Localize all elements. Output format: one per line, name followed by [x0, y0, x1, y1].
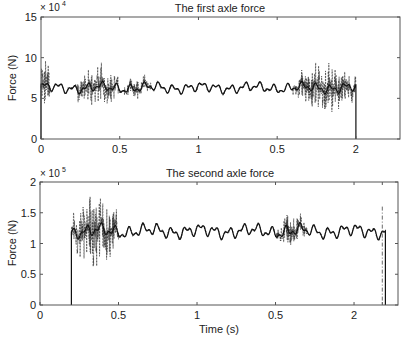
- series-dashed: [41, 61, 356, 112]
- x-axis-label: Time (s): [199, 323, 239, 335]
- y-tick-label: 2: [30, 176, 36, 188]
- x-tick-label: 2: [353, 143, 359, 155]
- y-tick-label: 5: [31, 92, 37, 104]
- x-tick-label: 0.5: [270, 143, 285, 155]
- x-tick-label: 1: [194, 309, 200, 321]
- plot-area-second: [71, 197, 385, 305]
- series-solid: [71, 223, 385, 305]
- x-tick-label: 0: [37, 309, 43, 321]
- y-tick-label: 0: [30, 299, 36, 311]
- y-tick-label: 0.5: [21, 268, 36, 280]
- y-axis-label-first: Force (N): [6, 55, 18, 101]
- y-tick-label: 1: [30, 238, 36, 250]
- y-tick-label: 1.5: [21, 207, 36, 219]
- ticks-second: 00.510.5200.511.52: [21, 176, 398, 321]
- y-exponent-first: × 10 4: [40, 0, 66, 13]
- figure: The first axle force × 10 4 Force (N) 00…: [0, 0, 405, 344]
- svg-text:× 10: × 10: [40, 168, 60, 179]
- y-tick-label: 10: [25, 52, 37, 64]
- x-tick-label: 0.5: [111, 309, 126, 321]
- y-tick-label: 0: [31, 133, 37, 145]
- chart-title-first: The first axle force: [175, 2, 265, 14]
- plot-area-first: [41, 61, 356, 139]
- svg-text:4: 4: [62, 0, 66, 7]
- svg-text:× 10: × 10: [40, 2, 60, 13]
- chart-first-axle-force: The first axle force × 10 4 Force (N) 00…: [6, 0, 400, 155]
- chart-title-second: The second axle force: [166, 167, 274, 179]
- chart-second-axle-force: The second axle force × 10 5 Force (N) 0…: [6, 166, 398, 335]
- x-tick-label: 2: [351, 309, 357, 321]
- x-tick-label: 1: [195, 143, 201, 155]
- svg-text:5: 5: [62, 166, 66, 173]
- axes-box-first: [41, 17, 400, 139]
- x-tick-label: 0.5: [268, 309, 283, 321]
- axes-box-second: [40, 182, 398, 305]
- y-tick-label: 15: [25, 11, 37, 23]
- y-exponent-second: × 10 5: [40, 166, 66, 179]
- y-axis-label-second: Force (N): [6, 220, 18, 266]
- x-tick-label: 0.5: [112, 143, 127, 155]
- x-tick-label: 0: [38, 143, 44, 155]
